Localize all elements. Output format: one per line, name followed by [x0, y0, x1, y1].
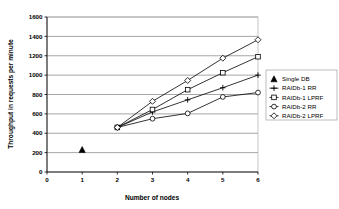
x-tick-label: 1: [80, 176, 84, 183]
data-point-marker: [185, 111, 190, 116]
legend-label: RAIDb-1 RR: [282, 84, 317, 91]
legend-label: RAIDb-1 LPRF: [282, 94, 323, 101]
y-tick-label: 800: [32, 91, 43, 98]
x-tick-label: 5: [221, 176, 225, 183]
x-tick-label: 0: [45, 176, 49, 183]
data-point-marker: [185, 87, 190, 92]
y-tick-label: 1000: [29, 71, 43, 78]
y-tick-label: 1200: [29, 52, 43, 59]
x-tick-label: 2: [116, 176, 120, 183]
y-axis-title: Throughput in requests per minute: [7, 39, 15, 149]
data-point-marker: [150, 107, 155, 112]
y-tick-label: 600: [32, 110, 43, 117]
y-tick-label: 400: [32, 129, 43, 136]
data-point-marker: [150, 116, 155, 121]
legend-marker-icon: [272, 95, 277, 100]
legend: Single DBRAIDb-1 RRRAIDb-1 LPRFRAIDb-2 R…: [266, 70, 337, 120]
x-tick-label: 4: [186, 176, 190, 183]
data-point-marker: [221, 70, 226, 75]
data-point-marker: [220, 95, 225, 100]
x-tick-label: 6: [256, 176, 260, 183]
legend-label: RAIDb-2 LPRF: [282, 112, 323, 119]
x-tick-label: 3: [151, 176, 155, 183]
y-tick-label: 1400: [29, 33, 43, 40]
legend-label: Single DB: [282, 75, 310, 82]
data-point-marker: [256, 90, 261, 95]
throughput-line-chart: 02004006008001000120014001600 0123456 Th…: [0, 0, 339, 209]
y-tick-label: 200: [32, 149, 43, 156]
legend-marker-icon: [272, 104, 277, 109]
data-point-marker: [256, 54, 261, 59]
x-axis-title: Number of nodes: [125, 194, 180, 201]
legend-label: RAIDb-2 RR: [282, 103, 317, 110]
chart-container: 02004006008001000120014001600 0123456 Th…: [0, 0, 339, 209]
y-tick-label: 1600: [29, 13, 43, 20]
y-tick-label: 0: [39, 168, 43, 175]
